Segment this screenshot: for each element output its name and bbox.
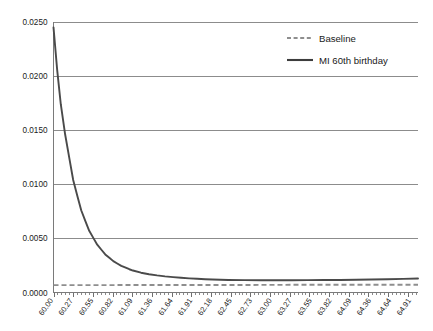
x-tick-label: 63.27 (275, 296, 293, 317)
x-tick-label: 62.45 (215, 296, 233, 317)
y-tick-label: 0.0100 (22, 180, 47, 189)
y-tick-label: 0.0150 (22, 126, 47, 135)
x-tick-label: 60.27 (57, 296, 75, 317)
y-tick-label: 0.0250 (22, 18, 47, 27)
x-tick-label: 61.09 (116, 296, 134, 317)
chart-legend: BaselineMI 60th birthday (287, 33, 388, 66)
x-tick-label: 60.55 (77, 296, 95, 317)
x-tick-labels: 60.0060.2760.5560.8261.0961.3661.6461.91… (37, 296, 413, 317)
x-tick-label: 64.36 (355, 296, 373, 317)
x-tick-label: 61.64 (156, 296, 174, 317)
series-paths (54, 27, 419, 285)
x-tick-label: 62.18 (196, 296, 214, 317)
x-tick-label: 63.55 (296, 296, 314, 317)
x-tick-label: 62.73 (236, 296, 254, 317)
chart-container: 0.00000.00500.01000.01500.02000.0250 60.… (0, 0, 433, 331)
x-tick-label: 64.91 (395, 296, 413, 317)
x-tick-label: 61.91 (176, 296, 194, 317)
x-tick-marks (55, 293, 417, 297)
x-tick-label: 64.64 (375, 296, 393, 317)
y-tick-label: 0.0050 (22, 234, 47, 243)
x-tick-label: 60.00 (37, 296, 55, 317)
x-tick-label: 60.82 (97, 296, 115, 317)
y-tick-labels: 0.00000.00500.01000.01500.02000.0250 (22, 18, 47, 298)
line-chart: 0.00000.00500.01000.01500.02000.0250 60.… (0, 0, 433, 331)
x-tick-label: 63.00 (256, 296, 274, 317)
y-tick-label: 0.0200 (22, 72, 47, 81)
legend-label-2: MI 60th birthday (319, 55, 388, 66)
x-tick-label: 64.09 (335, 296, 353, 317)
x-tick-label: 63.82 (315, 296, 333, 317)
y-tick-label: 0.0000 (22, 289, 47, 298)
x-tick-label: 61.36 (136, 296, 154, 317)
legend-label-1: Baseline (319, 33, 356, 44)
